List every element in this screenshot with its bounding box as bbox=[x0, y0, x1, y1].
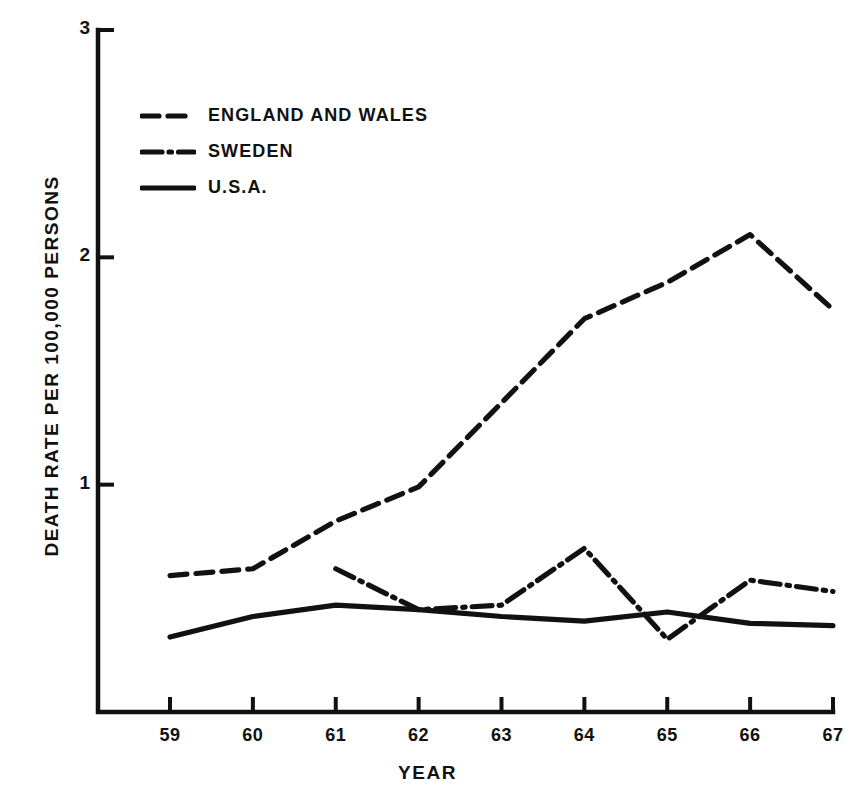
x-tick-label: 64 bbox=[562, 725, 606, 746]
line-chart: DEATH RATE PER 100,000 PERSONS YEAR 123 … bbox=[0, 0, 855, 800]
legend-item-label: ENGLAND AND WALES bbox=[208, 105, 428, 126]
x-tick-label: 63 bbox=[480, 725, 524, 746]
legend-item[interactable]: SWEDEN bbox=[140, 141, 294, 162]
y-tick-label: 1 bbox=[50, 472, 90, 494]
legend-item[interactable]: ENGLAND AND WALES bbox=[140, 105, 428, 126]
x-tick-label: 65 bbox=[645, 725, 689, 746]
legend-line-swatch-icon bbox=[140, 107, 196, 125]
x-tick-label: 59 bbox=[148, 725, 192, 746]
x-tick-label: 66 bbox=[728, 725, 772, 746]
y-tick-label: 2 bbox=[50, 244, 90, 266]
x-axis-title: YEAR bbox=[0, 762, 855, 784]
x-tick-label: 60 bbox=[231, 725, 275, 746]
legend-line-swatch-icon bbox=[140, 143, 196, 161]
y-axis-ticks bbox=[98, 30, 114, 485]
legend-item-label: SWEDEN bbox=[208, 141, 294, 162]
legend-item[interactable]: U.S.A. bbox=[140, 177, 268, 198]
data-series-group bbox=[170, 235, 833, 640]
y-axis-title: DEATH RATE PER 100,000 PERSONS bbox=[41, 146, 63, 586]
y-tick-label: 3 bbox=[50, 17, 90, 39]
series-line-0 bbox=[170, 235, 833, 576]
x-tick-label: 67 bbox=[811, 725, 855, 746]
series-line-2 bbox=[170, 605, 833, 637]
x-tick-label: 61 bbox=[314, 725, 358, 746]
legend-line-swatch-icon bbox=[140, 179, 196, 197]
legend-item-label: U.S.A. bbox=[208, 177, 268, 198]
x-tick-label: 62 bbox=[397, 725, 441, 746]
